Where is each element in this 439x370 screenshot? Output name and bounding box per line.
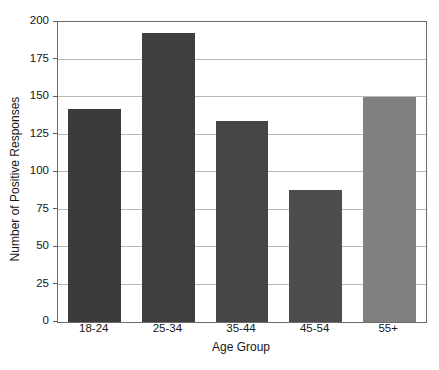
x-axis-label: Age Group [57, 340, 425, 354]
bar-chart-figure: Number of Positive Responses 02550751001… [0, 0, 439, 370]
bar [142, 33, 195, 323]
bar [363, 97, 416, 322]
y-tick-label: 0 [43, 315, 53, 327]
x-tick-label: 55+ [351, 323, 425, 335]
x-tick-label: 18-24 [57, 323, 131, 335]
y-tick-label: 25 [36, 278, 53, 290]
y-tick-label: 200 [30, 15, 53, 27]
x-tick-label: 25-34 [131, 323, 205, 335]
scan-bleed-artifact [0, 356, 439, 368]
bar [68, 109, 121, 322]
bar [216, 121, 269, 322]
bar [289, 190, 342, 322]
y-tick-label: 50 [36, 240, 53, 252]
plot-area [57, 21, 427, 323]
y-tick-label: 125 [30, 128, 53, 140]
y-tick-label: 100 [30, 165, 53, 177]
x-tick-label: 35-44 [204, 323, 278, 335]
y-tick-label: 75 [36, 203, 53, 215]
x-tick-label: 45-54 [278, 323, 352, 335]
y-axis-ticks: 0255075100125150175200 [0, 21, 57, 321]
bar-series [58, 22, 426, 322]
y-tick-label: 150 [30, 90, 53, 102]
y-tick-label: 175 [30, 53, 53, 65]
x-axis-ticks: 18-2425-3435-4445-5455+ [57, 323, 425, 341]
